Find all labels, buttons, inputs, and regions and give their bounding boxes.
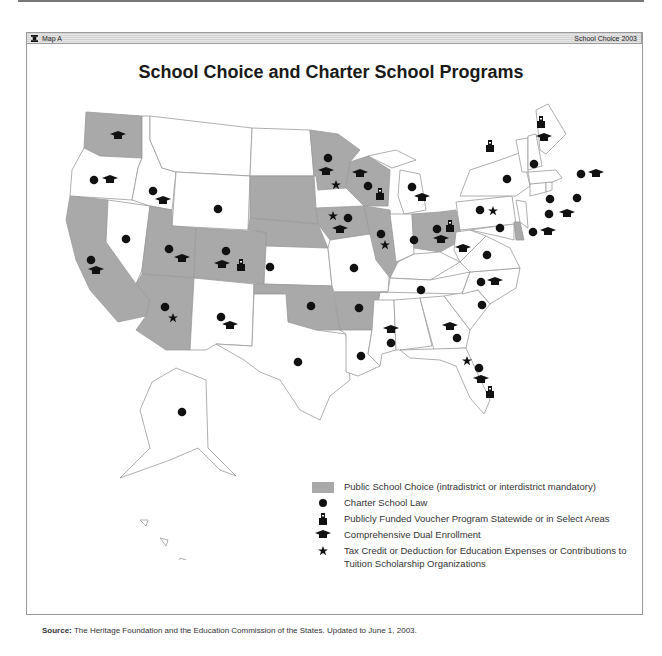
header-left: Map A xyxy=(31,33,62,44)
source-label: Source: xyxy=(42,626,72,635)
top-rule xyxy=(18,0,644,2)
page-title: School Choice and Charter School Program… xyxy=(0,62,662,83)
state-north-dakota xyxy=(250,128,314,176)
source-text: The Heritage Foundation and the Educatio… xyxy=(74,626,417,635)
state-hawaii xyxy=(140,520,192,560)
state-rhode-island xyxy=(546,182,552,192)
report-label: School Choice 2003 xyxy=(574,33,637,44)
graduation-cap-icon xyxy=(314,530,332,540)
dot-icon xyxy=(317,497,329,509)
schoolhouse-icon xyxy=(317,512,329,526)
legend-item-voucher: Publicly Funded Voucher Program Statewid… xyxy=(310,512,630,528)
state-michigan xyxy=(398,170,426,214)
source-note: Source: The Heritage Foundation and the … xyxy=(42,626,417,635)
legend: Public School Choice (intradistrict or i… xyxy=(310,480,630,574)
state-colorado xyxy=(194,228,266,284)
header-bar: Map A School Choice 2003 xyxy=(26,32,642,44)
gray-swatch-icon xyxy=(312,482,334,493)
legend-item-public-choice: Public School Choice (intradistrict or i… xyxy=(310,480,630,496)
state-montana xyxy=(150,116,252,176)
state-alaska xyxy=(120,368,236,478)
state-massachusetts xyxy=(528,170,562,184)
star-icon xyxy=(317,545,329,557)
legend-item-dual-enrollment: Comprehensive Dual Enrollment xyxy=(310,528,630,544)
state-delaware xyxy=(514,222,524,240)
state-kansas xyxy=(264,246,332,286)
state-wyoming xyxy=(172,172,250,230)
legend-item-charter: Charter School Law xyxy=(310,496,630,512)
state-florida xyxy=(400,348,490,414)
book-icon xyxy=(31,35,38,42)
map-label: Map A xyxy=(42,33,62,44)
state-maine xyxy=(536,104,566,154)
state-south-dakota xyxy=(250,176,318,224)
legend-item-tax-credit: Tax Credit or Deduction for Education Ex… xyxy=(310,544,630,574)
